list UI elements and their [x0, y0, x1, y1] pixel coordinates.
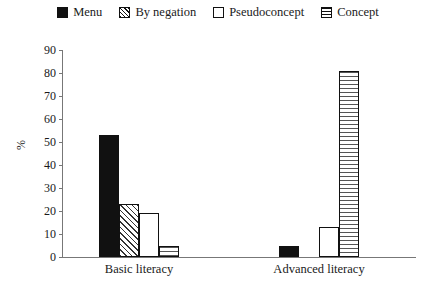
legend-item-label: Concept [337, 6, 379, 19]
y-tick-30: 30 [44, 182, 63, 194]
bar [319, 227, 339, 257]
bar [99, 135, 119, 257]
plot-area: 0102030405060708090 Basic literacyAdvanc… [62, 50, 416, 258]
legend-item-hlines: Concept [321, 6, 379, 19]
y-tick-label: 80 [44, 67, 56, 79]
x-axis-label: Advanced literacy [273, 262, 364, 277]
bar [139, 213, 159, 257]
y-tick-label: 60 [44, 113, 56, 125]
y-tick-label: 0 [50, 251, 56, 263]
y-tick-label: 70 [44, 90, 56, 102]
y-tick-label: 20 [44, 205, 56, 217]
y-tick-60: 60 [44, 113, 63, 125]
horizontal-lines-square-icon [321, 7, 332, 18]
y-tick-label: 40 [44, 159, 56, 171]
legend-item-empty: Pseudoconcept [213, 6, 304, 19]
y-tick-20: 20 [44, 205, 63, 217]
empty-square-icon [213, 7, 224, 18]
chart-legend: MenuBy negationPseudoconceptConcept [0, 6, 436, 19]
y-tick-80: 80 [44, 67, 63, 79]
legend-item-hatch: By negation [119, 6, 196, 19]
y-tick-10: 10 [44, 228, 63, 240]
legend-item-label: Menu [73, 6, 102, 19]
bars-layer [63, 50, 416, 257]
y-tick-label: 90 [44, 44, 56, 56]
bar [339, 71, 359, 257]
bar [119, 204, 139, 257]
y-tick-label: 10 [44, 228, 56, 240]
x-axis-label: Basic literacy [105, 262, 173, 277]
bar [159, 246, 179, 258]
legend-item-label: By negation [135, 6, 196, 19]
y-tick-0: 0 [50, 251, 63, 263]
y-tick-70: 70 [44, 90, 63, 102]
y-tick-label: 50 [44, 136, 56, 148]
bar [279, 246, 299, 258]
diagonal-hatch-square-icon [119, 7, 130, 18]
y-tick-40: 40 [44, 159, 63, 171]
y-tick-90: 90 [44, 44, 63, 56]
solid-square-icon [57, 7, 68, 18]
legend-item-solid: Menu [57, 6, 102, 19]
y-axis-title: % [14, 140, 29, 150]
y-tick-label: 30 [44, 182, 56, 194]
y-tick-50: 50 [44, 136, 63, 148]
bar-chart: MenuBy negationPseudoconceptConcept % 01… [0, 0, 436, 301]
legend-item-label: Pseudoconcept [229, 6, 304, 19]
